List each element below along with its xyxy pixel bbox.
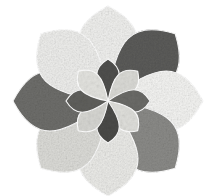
artwork-canvas xyxy=(0,0,217,196)
inner-petal-ring xyxy=(66,59,150,143)
rosette-illustration xyxy=(0,0,217,196)
